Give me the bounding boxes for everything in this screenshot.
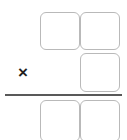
multiplication-worksheet: × <box>0 0 127 140</box>
multiplication-sign-icon: × <box>12 61 34 83</box>
second-operand-ones-cell[interactable] <box>80 53 120 92</box>
answer-ones-cell[interactable] <box>80 100 120 140</box>
answer-tens-cell[interactable] <box>40 100 80 140</box>
answer-rule <box>5 94 122 96</box>
first-operand-ones-cell[interactable] <box>80 12 120 50</box>
first-operand-tens-cell[interactable] <box>40 12 80 50</box>
